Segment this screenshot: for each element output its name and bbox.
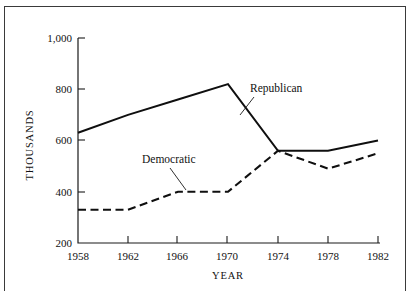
y-tick-label-1000: 1,000 xyxy=(47,32,72,44)
leader-line-republican xyxy=(240,97,254,115)
y-tick-label-200: 200 xyxy=(56,237,73,249)
x-tick-labels: 1958 1962 1966 1970 1974 1978 1982 xyxy=(67,250,389,262)
x-tick-label-1970: 1970 xyxy=(216,250,239,262)
y-tick-label-600: 600 xyxy=(56,134,73,146)
axis-lines xyxy=(78,38,380,243)
y-tick-label-800: 800 xyxy=(56,83,73,95)
series-line-republican xyxy=(78,84,378,151)
y-tick-label-400: 400 xyxy=(56,186,73,198)
x-tick-label-1982: 1982 xyxy=(367,250,389,262)
series-line-democratic xyxy=(78,151,378,210)
y-tick-marks xyxy=(78,38,85,192)
axes xyxy=(78,38,380,243)
y-axis-title: THOUSANDS xyxy=(24,110,35,181)
data-series xyxy=(78,84,378,210)
x-tick-label-1958: 1958 xyxy=(67,250,90,262)
x-tick-marks xyxy=(128,236,378,243)
x-tick-label-1974: 1974 xyxy=(267,250,290,262)
leader-line-democratic xyxy=(170,168,186,190)
y-tick-labels: 1,000 800 600 400 200 xyxy=(47,32,72,249)
line-chart: 1,000 800 600 400 200 1958 1962 1966 197… xyxy=(0,0,411,295)
x-tick-label-1966: 1966 xyxy=(166,250,189,262)
series-label-democratic: Democratic xyxy=(142,153,196,165)
annotation-democratic: Democratic xyxy=(142,153,196,190)
x-tick-label-1962: 1962 xyxy=(117,250,139,262)
chart-figure: 1,000 800 600 400 200 1958 1962 1966 197… xyxy=(0,0,411,295)
series-label-republican: Republican xyxy=(250,82,303,95)
x-axis-title: YEAR xyxy=(212,270,244,281)
x-tick-label-1978: 1978 xyxy=(317,250,340,262)
annotation-republican: Republican xyxy=(240,82,303,115)
